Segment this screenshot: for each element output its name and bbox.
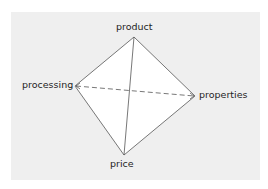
tetrahedron-face [75,37,195,155]
node-label-properties: properties [199,90,247,100]
node-label-processing: processing [22,80,73,90]
node-label-price: price [110,159,134,169]
node-label-product: product [116,22,153,32]
